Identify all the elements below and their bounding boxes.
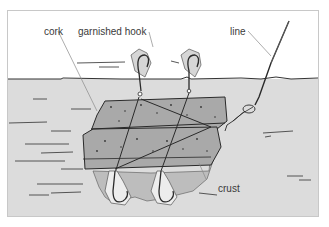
diagram-frame: cork garnished hook line crust (7, 10, 319, 217)
label-crust: crust (218, 184, 240, 194)
label-cork: cork (44, 27, 63, 37)
water-surface-line (8, 77, 318, 79)
fishing-rig-illustration (8, 11, 318, 216)
cork-block-bottom (83, 127, 221, 169)
sky-dashes (77, 61, 179, 67)
label-garnished-hook: garnished hook (78, 27, 146, 37)
label-line: line (230, 27, 246, 37)
